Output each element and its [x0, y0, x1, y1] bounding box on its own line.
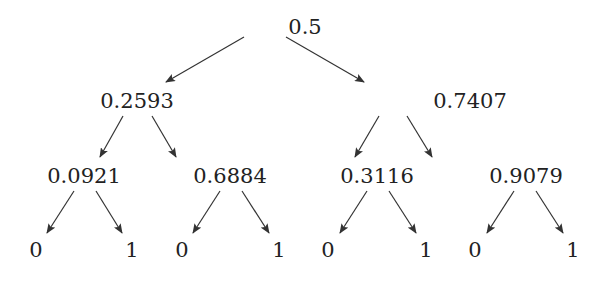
edge-l1a-right: [152, 116, 176, 157]
edge-l2d-left: [487, 191, 514, 233]
edge-l2d-right: [536, 191, 563, 233]
edge-l1b-left: [355, 116, 379, 157]
edge-l2a-left: [47, 191, 74, 233]
edge-l2b-left: [193, 191, 220, 233]
leaf-node: 1: [419, 238, 432, 262]
level1-node: 0.7407: [433, 89, 506, 113]
tree-edges: [0, 0, 601, 281]
leaf-node: 0: [468, 238, 481, 262]
leaf-node: 1: [566, 238, 579, 262]
leaf-node: 0: [321, 238, 334, 262]
level2-node: 0.0921: [47, 164, 120, 188]
level2-node: 0.6884: [193, 164, 266, 188]
level1-node: 0.2593: [100, 89, 173, 113]
level2-node: 0.9079: [489, 164, 562, 188]
edge-root-left: [166, 37, 244, 82]
edge-l2b-right: [242, 191, 269, 233]
edge-root-right: [286, 37, 364, 82]
binary-tree-diagram: 0.5 0.2593 0.7407 0.0921 0.6884 0.3116 0…: [0, 0, 601, 281]
edge-l2a-right: [96, 191, 122, 233]
leaf-node: 1: [125, 238, 138, 262]
edge-l2c-left: [340, 191, 367, 233]
level2-node: 0.3116: [340, 164, 413, 188]
root-node: 0.5: [288, 15, 321, 39]
leaf-node: 0: [29, 238, 42, 262]
leaf-node: 0: [175, 238, 188, 262]
edge-l1a-left: [100, 116, 123, 157]
edge-l2c-right: [389, 191, 416, 233]
leaf-node: 1: [272, 238, 285, 262]
edge-l1b-right: [407, 116, 432, 157]
